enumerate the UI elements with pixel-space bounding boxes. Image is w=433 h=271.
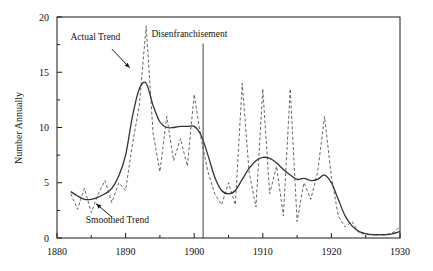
y-tick-label: 5 [44, 177, 49, 188]
y-tick-label: 20 [39, 12, 49, 23]
y-tick-label: 0 [44, 233, 49, 244]
annotation-label-disenfranchisement: Disenfranchisement [151, 29, 227, 39]
x-tick-label: 1890 [116, 246, 136, 257]
x-tick-label: 1930 [390, 246, 410, 257]
y-tick-label: 15 [39, 67, 49, 78]
y-axis-title: Number Annually [13, 92, 24, 164]
chart-figure: 18801890190019101920193005101520 Actual … [0, 0, 433, 271]
annotation-label-actual-trend: Actual Trend [70, 32, 120, 42]
y-tick-label: 10 [39, 122, 49, 133]
x-tick-label: 1900 [184, 246, 204, 257]
plot-frame [57, 17, 400, 238]
x-tick-label: 1920 [321, 246, 341, 257]
line-chart: 18801890190019101920193005101520 Actual … [0, 0, 433, 271]
annotation-label-smoothed-trend: Smoothed Trend [86, 215, 149, 225]
x-tick-label: 1910 [253, 246, 273, 257]
x-tick-label: 1880 [47, 246, 67, 257]
